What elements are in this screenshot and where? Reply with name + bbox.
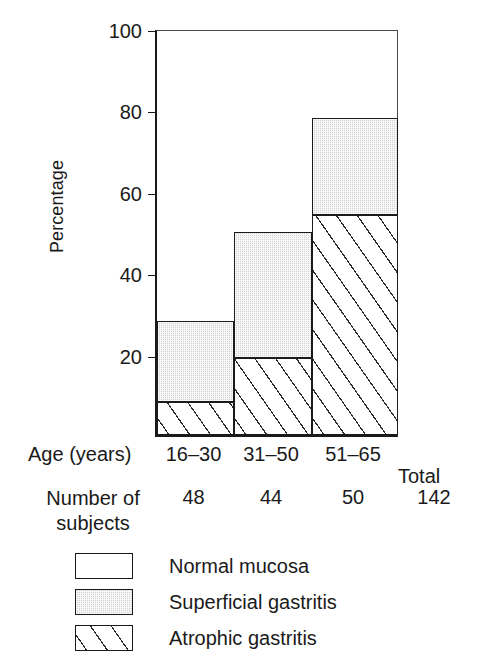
y-tick-label-20: 20 [120,346,142,368]
age-value-16-30: 16–30 [155,443,232,466]
y-tick-60: 60 [148,194,157,195]
bar-31-50-segment-atrophic [234,358,312,435]
bar-16-30-segment-atrophic [157,402,234,435]
y-tick-label-100: 100 [109,20,142,42]
legend-swatch-atrophic-gastritis [75,625,133,651]
age-value-51-65: 51–65 [310,443,396,466]
bar-16-30-segment-superficial [157,321,234,402]
y-tick-100: 100 [148,31,157,32]
subject-count-row-label-line2: subjects [56,512,129,534]
plot-area: 100 80 60 40 20 [155,30,398,437]
legend-item-superficial-gastritis: Superficial gastritis [75,584,475,620]
stacked-bar-chart: Percentage 100 80 60 40 20 [0,0,490,460]
bar-51-65 [312,28,398,435]
subject-count-total: 142 [396,486,472,509]
legend-label-superficial-gastritis: Superficial gastritis [169,591,337,614]
legend-item-atrophic-gastritis: Atrophic gastritis [75,620,475,656]
legend-swatch-normal-mucosa [75,553,133,579]
legend-swatch-superficial-gastritis [75,589,133,615]
y-tick-label-80: 80 [120,101,142,123]
subject-count-row-label: Number of subjects [28,486,158,536]
legend: Normal mucosa Superficial gastritis Atro… [75,548,475,656]
legend-label-atrophic-gastritis: Atrophic gastritis [169,627,317,650]
subject-count-row-label-line1: Number of [46,487,139,509]
subject-count-16-30: 48 [155,486,232,509]
legend-label-normal-mucosa: Normal mucosa [169,555,309,578]
y-tick-20: 20 [148,357,157,358]
y-tick-label-40: 40 [120,264,142,286]
y-tick-80: 80 [148,112,157,113]
age-row-label: Age (years) [28,443,131,466]
bar-31-50 [234,28,312,435]
data-table: Age (years) 16–30 31–50 51–65 Total Numb… [0,443,490,538]
subject-count-31-50: 44 [232,486,310,509]
bar-51-65-segment-superficial [312,118,398,216]
bar-16-30 [157,28,234,435]
total-header-label: Total [398,465,440,488]
subject-count-51-65: 50 [310,486,396,509]
bar-31-50-segment-superficial [234,232,312,358]
bar-51-65-segment-atrophic [312,215,398,435]
y-axis-title: Percentage [47,107,68,307]
age-value-31-50: 31–50 [232,443,310,466]
y-tick-40: 40 [148,275,157,276]
y-tick-label-60: 60 [120,183,142,205]
legend-item-normal-mucosa: Normal mucosa [75,548,475,584]
